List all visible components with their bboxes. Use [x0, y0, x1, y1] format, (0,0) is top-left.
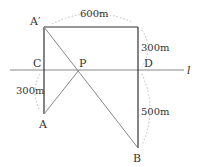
label-distance-right-lower: 500m: [141, 106, 170, 117]
label-c: C: [33, 57, 41, 70]
label-distance-right-upper: 300m: [141, 42, 170, 53]
label-distance-left-lower: 300m: [16, 85, 45, 96]
label-distance-top: 600m: [80, 8, 109, 19]
label-p: P: [79, 57, 87, 70]
label-a: A: [38, 118, 48, 131]
label-d: D: [144, 57, 153, 70]
segment-a-p: [44, 70, 79, 114]
diagram-svg: A′ C P D A B l 600m 300m 300m 500m: [0, 0, 200, 167]
label-b: B: [133, 152, 141, 165]
reflection-diagram: A′ C P D A B l 600m 300m 300m 500m: [0, 0, 200, 167]
label-line-l: l: [187, 64, 191, 77]
label-a-prime: A′: [29, 15, 41, 28]
segment-a-prime-b: [44, 27, 138, 148]
